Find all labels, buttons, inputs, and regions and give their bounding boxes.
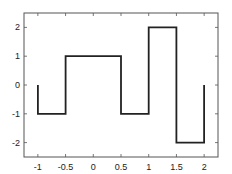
y-tick-label: 1 (15, 51, 20, 61)
x-tick-label: 1 (146, 162, 151, 172)
x-tick-label: 0.5 (115, 162, 128, 172)
step-function-chart: -1-0.500.511.52 -2-1012 (0, 0, 232, 174)
y-tick-label: 2 (15, 22, 20, 32)
y-tick-label: -1 (12, 109, 20, 119)
y-tick-label: 0 (15, 80, 20, 90)
y-tick-label: -2 (12, 138, 20, 148)
x-tick-label: 1.5 (170, 162, 183, 172)
x-tick-label: -0.5 (58, 162, 74, 172)
x-tick-label: 2 (202, 162, 207, 172)
x-tick-label: -1 (34, 162, 42, 172)
x-tick-label: 0 (91, 162, 96, 172)
